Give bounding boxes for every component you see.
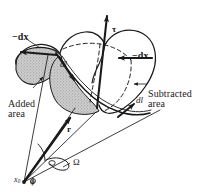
solid-angle-cone-rays [24,55,160,182]
phi-label: φ [30,178,35,186]
tau-label: τ [112,25,116,34]
dl-lower-label: dl [136,96,143,105]
dl-upper-label: dl [60,60,67,69]
omega-label: Ω [73,158,80,167]
figure-container: −dx −dx τ dl dl r Ω Added area Subtracte… [0,0,205,196]
subtracted-area-label: Subtracted area [148,79,192,110]
origin-subscript: 0 [18,178,21,184]
dx-left-label: −dx [12,32,29,42]
added-area-label: Added area [8,89,35,120]
origin-label: x0 [14,176,20,185]
r-vector-label: r [67,125,71,134]
added-area-central-shading [50,56,99,114]
dx-right-label: −dx [132,51,149,61]
origin-apex-point [22,180,26,184]
tau-normal-arrow [97,16,107,108]
